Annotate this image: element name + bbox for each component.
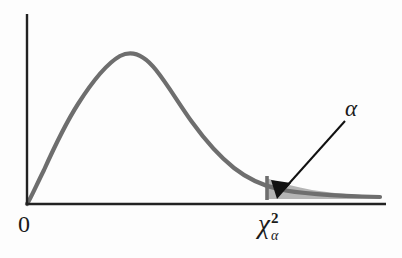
chi-square-density-curve	[27, 53, 380, 204]
critical-value-label: χ 2 α	[258, 211, 278, 243]
origin-label: 0	[18, 212, 30, 236]
chi-script-stack: 2 α	[271, 211, 279, 243]
chi-subscript-alpha: α	[271, 229, 278, 243]
chi-square-figure: 0 α χ 2 α	[0, 0, 402, 258]
alpha-label: α	[345, 97, 357, 120]
alpha-arrow-shaft	[285, 121, 345, 188]
chi-glyph: χ	[258, 211, 270, 238]
chi-square-plot-canvas	[0, 0, 402, 258]
chi-superscript-two: 2	[271, 211, 279, 226]
